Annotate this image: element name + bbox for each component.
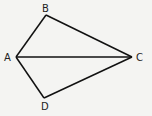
segment-bc — [46, 15, 132, 57]
segment-da — [16, 57, 44, 98]
label-a: A — [4, 52, 11, 63]
segment-ab — [16, 15, 46, 57]
label-c: C — [136, 52, 143, 63]
kite-diagram: B A C D — [0, 0, 152, 116]
label-b: B — [42, 3, 49, 14]
label-d: D — [41, 101, 49, 112]
segment-cd — [44, 57, 132, 98]
